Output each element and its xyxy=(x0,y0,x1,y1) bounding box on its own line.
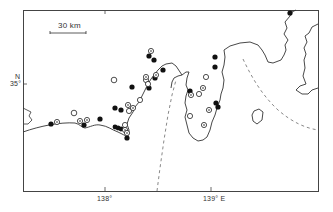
scale-bar-label: 30 km xyxy=(58,21,81,30)
longitude-138-label: 138° xyxy=(97,195,112,202)
dashed-line-sagami-trough xyxy=(243,59,318,130)
coastline-lake xyxy=(23,108,32,124)
coastline-izu xyxy=(185,10,296,141)
dashed-line-suruga-trough xyxy=(157,80,176,191)
latitude-35-label: 35° xyxy=(10,80,21,87)
open-markers xyxy=(71,74,208,127)
longitude-139-label: 139° E xyxy=(203,195,225,202)
island-oshima xyxy=(252,109,263,124)
coastline-west xyxy=(23,123,128,137)
latitude-n-label: N xyxy=(15,73,20,80)
scale-bar xyxy=(50,31,86,34)
map-figure xyxy=(0,0,333,212)
coastline-east xyxy=(296,24,318,94)
